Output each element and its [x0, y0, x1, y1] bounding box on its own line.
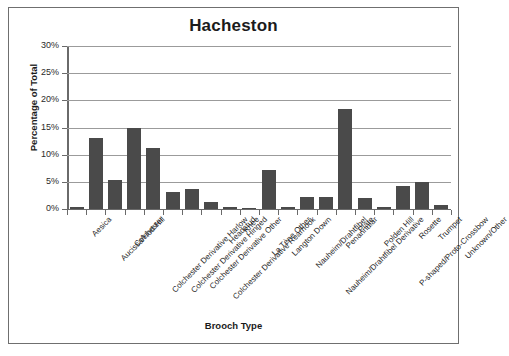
y-axis-tick-label: 0%: [15, 203, 59, 213]
bar: [242, 208, 256, 209]
y-axis-tick-label: 25%: [15, 67, 59, 77]
y-axis-tick-label: 20%: [15, 94, 59, 104]
y-axis-tick-label: 30%: [15, 40, 59, 50]
bar: [281, 207, 295, 209]
y-axis-tick-label: 10%: [15, 149, 59, 159]
gridline: [67, 73, 451, 74]
x-axis-tick-label: Colchester: [132, 215, 165, 248]
gridline: [67, 128, 451, 129]
y-axis-tick-label: 5%: [15, 176, 59, 186]
x-axis-labels: AesicaAucissa/Hod HillColchesterColchest…: [67, 215, 451, 325]
bar: [127, 128, 141, 210]
gridline: [67, 100, 451, 101]
x-axis-title: Brooch Type: [9, 320, 458, 331]
gridline: [67, 182, 451, 183]
chart-container: Hacheston Percentage of Total 30%25%20%1…: [8, 7, 459, 344]
x-axis-tick-label: Aesica: [90, 215, 113, 238]
bar: [89, 138, 103, 209]
bar: [358, 198, 372, 209]
bar: [166, 192, 180, 209]
bar: [319, 197, 333, 209]
bar: [146, 148, 160, 209]
gridline: [67, 46, 451, 47]
bar: [108, 180, 122, 209]
bar: [396, 186, 410, 209]
x-axis-tick: [451, 210, 452, 215]
bar: [300, 197, 314, 209]
bar: [338, 109, 352, 209]
bar: [262, 170, 276, 209]
bar: [223, 207, 237, 209]
bar: [185, 189, 199, 209]
bar: [204, 202, 218, 209]
gridline: [67, 155, 451, 156]
bar: [415, 182, 429, 209]
bar: [70, 207, 84, 209]
chart-title: Hacheston: [9, 16, 458, 36]
bar: [377, 207, 391, 209]
plot-area: [67, 46, 451, 209]
y-axis-tick-label: 15%: [15, 122, 59, 132]
bar: [434, 205, 448, 209]
